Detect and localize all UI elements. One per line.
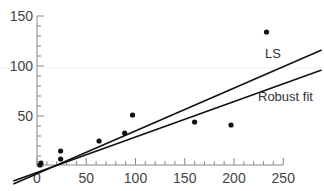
- robust-fit-line: [13, 70, 321, 181]
- data-point: [122, 130, 127, 135]
- data-point: [130, 112, 135, 117]
- data-point: [228, 122, 233, 127]
- data-point: [264, 29, 269, 34]
- x-tick-label: 50: [78, 170, 94, 186]
- x-tick-label: 250: [272, 170, 296, 186]
- data-point: [58, 156, 63, 161]
- data-point: [192, 119, 197, 124]
- data-point: [96, 138, 101, 143]
- data-point: [58, 148, 63, 153]
- x-tick-label: 150: [173, 170, 197, 186]
- chart: 50100150050100150200250 LS Robust fit: [0, 0, 324, 191]
- robust-fit-label: Robust fit: [258, 89, 313, 104]
- x-tick-label: 200: [222, 170, 246, 186]
- fit-lines: [13, 50, 321, 184]
- data-points: [37, 29, 269, 167]
- x-tick-label: 100: [124, 170, 148, 186]
- y-tick-label: 100: [10, 58, 34, 74]
- ls-label: LS: [265, 46, 281, 61]
- y-tick-label: 50: [17, 108, 33, 124]
- data-point: [38, 160, 43, 165]
- axes: 50100150050100150200250: [10, 8, 296, 186]
- y-tick-label: 150: [10, 8, 34, 24]
